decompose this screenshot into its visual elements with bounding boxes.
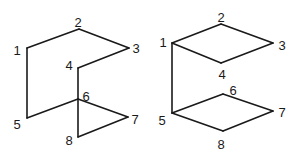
left-edge-6-5 (27, 99, 78, 118)
left-graph-labels: 12345678 (13, 15, 139, 148)
right-edge-5-6 (172, 94, 223, 113)
right-vertex-label-3: 3 (278, 38, 285, 53)
right-graph: 12345678 (158, 10, 285, 152)
graph-diagram: 12345678 12345678 (0, 0, 297, 161)
left-edge-2-3 (79, 29, 129, 48)
right-edge-8-5 (172, 113, 223, 131)
right-vertex-label-6: 6 (229, 83, 236, 98)
right-vertex-label-8: 8 (217, 137, 224, 152)
left-vertex-label-4: 4 (65, 58, 72, 73)
right-vertex-label-7: 7 (278, 105, 285, 120)
left-vertex-label-1: 1 (13, 43, 20, 58)
left-graph: 12345678 (13, 15, 139, 148)
right-edge-1-2 (172, 24, 221, 43)
right-vertex-label-1: 1 (159, 35, 166, 50)
right-vertex-label-4: 4 (218, 67, 225, 82)
right-vertex-label-5: 5 (158, 113, 165, 128)
left-vertex-label-3: 3 (132, 41, 139, 56)
left-edge-8-7 (78, 117, 128, 137)
right-edge-2-3 (221, 24, 273, 43)
left-vertex-label-5: 5 (13, 117, 20, 132)
left-edge-3-4 (78, 48, 129, 68)
right-edge-3-4 (221, 43, 273, 63)
left-vertex-label-8: 8 (65, 133, 72, 148)
left-vertex-label-7: 7 (131, 112, 138, 127)
right-vertex-label-2: 2 (217, 10, 224, 25)
left-graph-edges (27, 29, 129, 137)
left-vertex-label-6: 6 (82, 89, 89, 104)
right-edge-7-8 (223, 111, 273, 131)
left-edge-1-2 (27, 29, 79, 48)
right-edge-4-1 (172, 43, 221, 63)
left-vertex-label-2: 2 (74, 15, 81, 30)
